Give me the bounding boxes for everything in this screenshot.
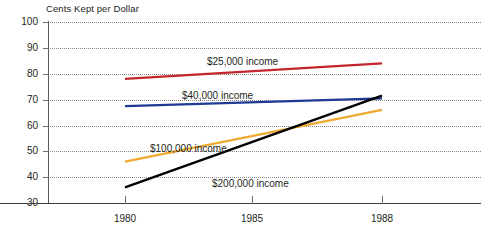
series-label-25000: $25,000 income (207, 56, 278, 67)
series-label-100000: $100,000 income (150, 143, 227, 154)
series-line-40000 (125, 98, 382, 106)
series-line-200000 (125, 96, 382, 188)
series-label-200000: $200,000 income (212, 178, 289, 189)
chart-canvas: Cents Kept per Dollar 100 90 80 70 60 50… (0, 0, 481, 243)
series-label-40000: $40,000 income (182, 90, 253, 101)
series-layer (0, 0, 481, 243)
